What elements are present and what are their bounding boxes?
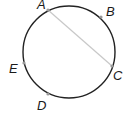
- point-e-marker: [22, 61, 25, 64]
- point-a-marker: [46, 8, 49, 11]
- label-b: B: [106, 4, 115, 19]
- label-e: E: [9, 61, 18, 76]
- label-a: A: [36, 0, 46, 12]
- circle: [23, 6, 115, 98]
- point-b-marker: [99, 15, 102, 18]
- label-c: C: [113, 68, 123, 83]
- chord-ac: [48, 10, 112, 66]
- label-d: D: [37, 98, 46, 113]
- point-d-marker: [46, 92, 49, 95]
- circle-diagram: A B C E D: [0, 0, 130, 118]
